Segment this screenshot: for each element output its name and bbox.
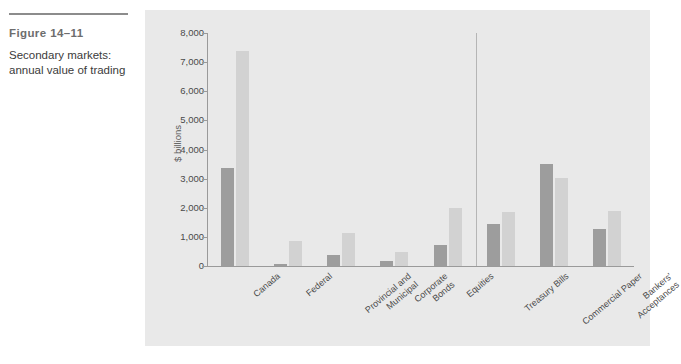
x-axis-label-line: Federal: [304, 271, 334, 299]
bar-group: [327, 33, 355, 266]
chart-panel: $ billions 01,0002,0003,0004,0005,0006,0…: [145, 10, 650, 346]
bar-group: [487, 33, 515, 266]
bars-layer: [208, 33, 634, 266]
bar-2000[interactable]: [221, 168, 234, 266]
bar-2012[interactable]: [502, 212, 515, 266]
bar-group: [274, 33, 302, 266]
figure-caption-line-2: annual value of trading: [9, 63, 135, 78]
bar-group: [540, 33, 568, 266]
figure-caption-line-1: Secondary markets:: [9, 48, 135, 63]
x-axis-label: Canada: [251, 271, 282, 299]
bar-2012[interactable]: [395, 252, 408, 266]
bar-2012[interactable]: [236, 51, 249, 266]
bar-2000[interactable]: [540, 164, 553, 266]
y-axis-tick-label: 5,000: [180, 114, 204, 125]
figure-caption-block: Figure 14–11 Secondary markets: annual v…: [9, 13, 135, 77]
bar-2012[interactable]: [608, 211, 621, 266]
bar-2012[interactable]: [449, 208, 462, 266]
y-axis-tick-label: 3,000: [180, 173, 204, 184]
bar-group: [434, 33, 462, 266]
x-axis-labels: CanadaFederalProvincial andMunicipalCorp…: [208, 268, 634, 346]
x-axis-label-line: Canada: [251, 271, 282, 299]
bar-2012[interactable]: [342, 233, 355, 266]
x-axis-label-line: Treasury Bills: [523, 271, 571, 314]
bar-2012[interactable]: [289, 241, 302, 266]
bar-group: [221, 33, 249, 266]
bar-group: [380, 33, 408, 266]
figure-caption-text: Secondary markets: annual value of tradi…: [9, 48, 135, 77]
bar-2000[interactable]: [274, 264, 287, 266]
figure-number: Figure 14–11: [9, 26, 135, 40]
bar-2000[interactable]: [327, 255, 340, 266]
y-axis-tick-label: 2,000: [180, 202, 204, 213]
x-axis-label: Treasury Bills: [523, 271, 571, 314]
x-axis-label: CorporateBonds: [413, 271, 457, 313]
x-axis-label: Federal: [304, 271, 334, 299]
y-axis-tick-label: 4,000: [180, 144, 204, 155]
bar-2000[interactable]: [434, 245, 447, 266]
bar-group: [593, 33, 621, 266]
bar-2012[interactable]: [555, 178, 568, 266]
y-axis-tick-label: 8,000: [180, 27, 204, 38]
bar-2000[interactable]: [380, 261, 393, 266]
plot-area: $ billions 01,0002,0003,0004,0005,0006,0…: [145, 10, 650, 346]
x-axis-label: Equities: [464, 271, 495, 300]
x-axis-label-line: Equities: [464, 271, 495, 300]
x-axis-line: [207, 266, 634, 267]
bar-2000[interactable]: [487, 224, 500, 266]
caption-rule: [9, 13, 128, 15]
x-axis-label: Provincial andMunicipal: [363, 271, 420, 323]
y-axis-tick-label: 7,000: [180, 56, 204, 67]
y-axis-tick-label: 6,000: [180, 85, 204, 96]
bar-2000[interactable]: [593, 229, 606, 266]
y-axis-tick-label: 1,000: [180, 231, 204, 242]
